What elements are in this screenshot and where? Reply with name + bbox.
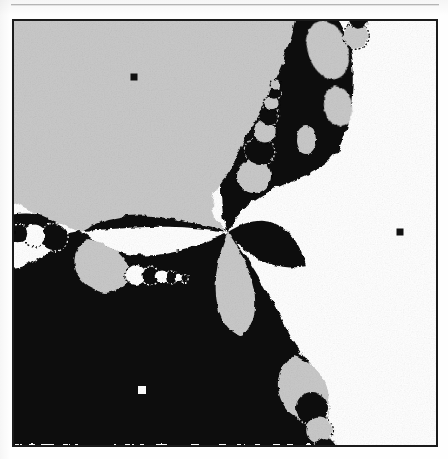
newton-basin-fractal <box>14 21 436 445</box>
horizontal-rule <box>11 4 439 5</box>
root-right <box>397 229 404 236</box>
figure-page <box>0 0 448 459</box>
figure-caption <box>0 0 1 1</box>
figure-frame <box>12 19 438 447</box>
root-upper-left <box>131 74 138 81</box>
root-lower-left <box>138 386 146 394</box>
